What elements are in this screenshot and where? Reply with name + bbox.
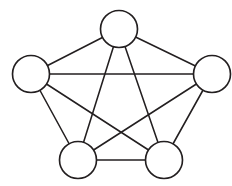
graph-node — [194, 56, 231, 93]
graph-edge — [119, 29, 164, 160]
diagram-canvas — [0, 0, 232, 186]
graph-edge — [78, 29, 119, 160]
edge-layer — [31, 29, 212, 160]
graph-node — [60, 142, 97, 179]
graph-node-circle — [146, 142, 183, 179]
graph-node-circle — [60, 142, 97, 179]
graph-node-circle — [101, 11, 138, 48]
graph-node-circle — [13, 56, 50, 93]
graph-node — [13, 56, 50, 93]
node-layer — [13, 11, 231, 179]
graph-node — [146, 142, 183, 179]
graph-node — [101, 11, 138, 48]
graph-node-circle — [194, 56, 231, 93]
graph-svg — [0, 0, 232, 186]
